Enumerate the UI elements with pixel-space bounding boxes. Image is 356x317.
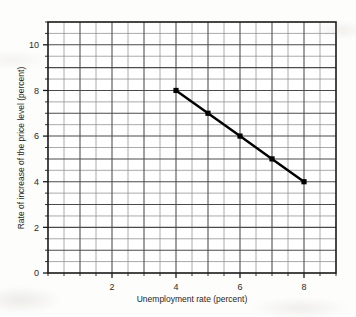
y-tick-label: 0	[34, 268, 39, 278]
chart-figure: 0246810 2468 Unemployment rate (percent)…	[0, 0, 356, 317]
y-tick-label: 8	[34, 86, 39, 96]
x-tick-label: 6	[237, 282, 242, 292]
y-tick-label: 4	[34, 177, 39, 187]
y-tick-label: 10	[29, 40, 39, 50]
x-axis-tick-labels: 2468	[109, 282, 306, 292]
y-axis-title: Rate of increase of the price level (per…	[16, 67, 26, 230]
phillips-curve-chart: 0246810 2468 Unemployment rate (percent)…	[0, 0, 356, 317]
x-axis-title: Unemployment rate (percent)	[137, 294, 248, 304]
data-point-marker	[205, 111, 210, 116]
x-tick-label: 8	[301, 282, 306, 292]
x-tick-label: 4	[173, 282, 178, 292]
data-point-marker	[237, 133, 242, 138]
data-point-marker	[173, 88, 178, 93]
y-axis-tick-labels: 0246810	[29, 40, 39, 278]
x-tick-label: 2	[109, 282, 114, 292]
data-point-marker	[301, 179, 306, 184]
data-point-marker	[269, 156, 274, 161]
y-tick-label: 6	[34, 131, 39, 141]
y-tick-label: 2	[34, 223, 39, 233]
